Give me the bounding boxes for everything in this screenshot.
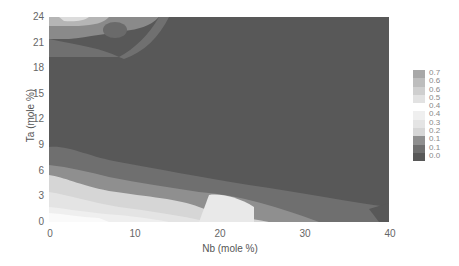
y-tick-6: 6: [14, 165, 44, 176]
x-tick-40: 40: [375, 228, 405, 239]
y-tick-0: 0: [14, 216, 44, 227]
legend-swatch: [413, 128, 425, 136]
legend-swatch: [413, 145, 425, 153]
x-axis-label: Nb (mole %): [170, 243, 290, 254]
x-tick-20: 20: [205, 228, 235, 239]
legend-label: 0.0: [429, 151, 440, 161]
legend-swatch: [413, 136, 425, 144]
legend-swatch: [413, 87, 425, 95]
legend-swatch: [413, 70, 425, 78]
legend-swatch: [413, 153, 425, 161]
y-axis-label: Ta (mole %): [25, 76, 36, 156]
y-tick-24: 24: [14, 11, 44, 22]
x-tick-0: 0: [35, 228, 65, 239]
legend-swatch: [413, 111, 425, 119]
y-tick-3: 3: [14, 190, 44, 201]
contour-plot: [49, 17, 389, 222]
legend-swatch: [413, 95, 425, 103]
y-tick-21: 21: [14, 37, 44, 48]
legend-swatch: [413, 103, 425, 111]
contour-plot-area: [49, 17, 389, 222]
legend-swatch: [413, 120, 425, 128]
x-tick-30: 30: [290, 228, 320, 239]
x-tick-10: 10: [120, 228, 150, 239]
y-tick-18: 18: [14, 62, 44, 73]
legend-swatch: [413, 78, 425, 86]
